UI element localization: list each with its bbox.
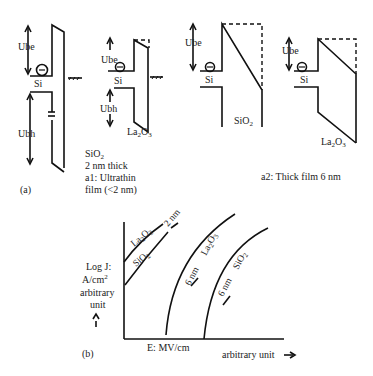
panel-a-label: (a) <box>20 184 31 196</box>
ube-label-3: Ube <box>185 37 202 48</box>
xunit-label: arbitrary unit <box>222 349 275 360</box>
ylabel-line4: unit <box>90 299 106 310</box>
curve-label-sio2-2nm: SiO2 <box>131 249 153 270</box>
ylabel-line3: arbitrary <box>80 287 114 298</box>
logj-vs-e-chart <box>93 214 295 358</box>
caption-film: film (<2 nm) <box>85 184 137 196</box>
curve-la2o3-6nm <box>166 214 235 335</box>
ube-label-4: Ube <box>282 45 299 56</box>
sio2-label: SiO2 <box>234 115 254 128</box>
si-label-3: Si <box>205 74 214 85</box>
curve-label-6nm-1: 6 nm <box>183 265 201 287</box>
curve-label-la2o3-2nm: La2O3 <box>129 225 155 250</box>
ylabel-line1: Log J: <box>86 261 111 272</box>
ylabel-line2: A/cm2 <box>82 273 108 285</box>
caption-a2: a2: Thick film 6 nm <box>261 171 341 182</box>
ube-label: Ube <box>18 41 35 52</box>
band-diagram-figure: Ube Si Ubh Ube Si Ubh La2O3 SiO2 2 nm th… <box>0 0 373 376</box>
ube-label-2: Ube <box>101 54 118 65</box>
si-label-4: Si <box>300 74 309 85</box>
caption-a1: a1: Ultrathin <box>85 172 136 183</box>
si-label: Si <box>34 78 43 89</box>
curve-label-2nm: 2 nm <box>162 207 182 229</box>
caption-thickness: 2 nm thick <box>85 160 128 171</box>
la2o3-label-2: La2O3 <box>321 136 346 149</box>
ubh-label-2: Ubh <box>100 103 117 114</box>
ubh-label: Ubh <box>18 128 35 139</box>
xlabel: E: MV/cm <box>147 342 190 353</box>
si-label-2: Si <box>114 75 123 86</box>
curve-label-sio2-6nm: SiO2 <box>231 250 250 272</box>
panel-b-label: (b) <box>82 348 94 360</box>
